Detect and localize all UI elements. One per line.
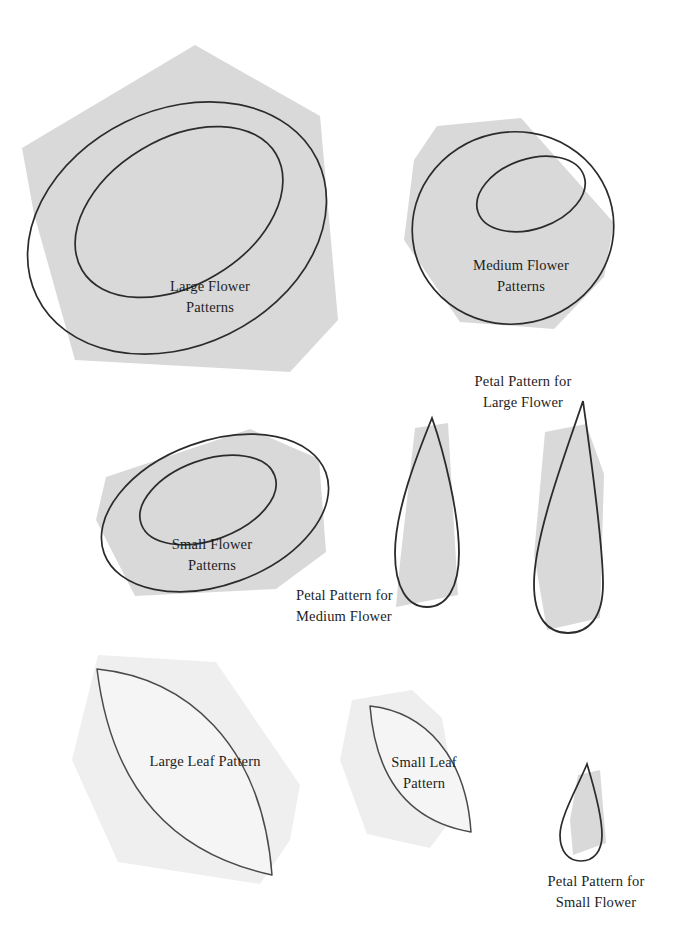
medium-petal-paper <box>396 423 458 607</box>
small-flower-paper <box>96 429 326 596</box>
pattern-artwork <box>0 0 689 948</box>
large-flower-piece[interactable] <box>0 45 369 402</box>
large-flower-paper <box>22 45 338 372</box>
medium-flower-piece[interactable] <box>394 113 632 343</box>
small-flower-piece[interactable] <box>79 405 350 621</box>
large-petal-paper <box>534 424 604 630</box>
small-petal-piece[interactable] <box>560 764 606 861</box>
medium-petal-piece[interactable] <box>395 418 459 607</box>
small-leaf-piece[interactable] <box>340 690 471 848</box>
pattern-sheet: Large Flower Patterns Medium Flower Patt… <box>0 0 689 948</box>
large-petal-piece[interactable] <box>534 401 604 633</box>
large-leaf-piece[interactable] <box>72 655 300 884</box>
